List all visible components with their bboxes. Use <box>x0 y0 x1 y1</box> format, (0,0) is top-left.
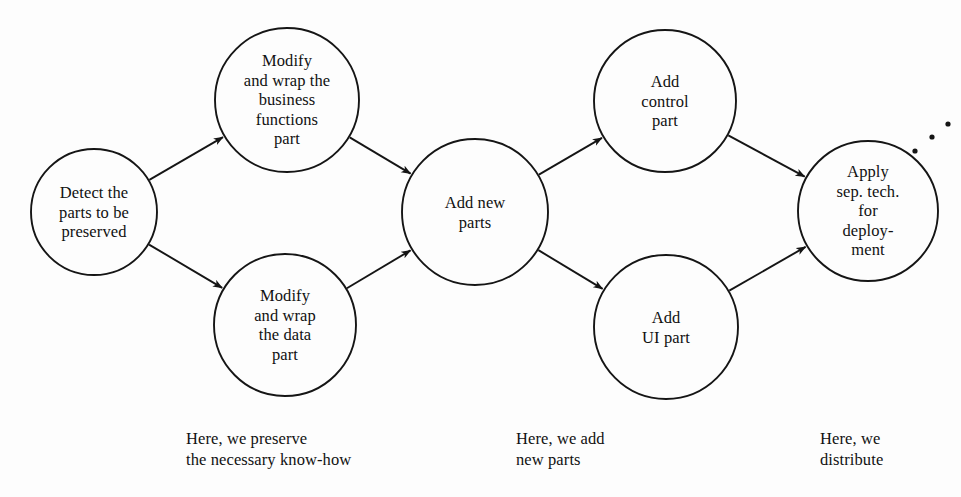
node-circle-modify-data[interactable] <box>214 254 356 396</box>
edge-add-ui-to-apply-sep <box>729 247 805 291</box>
edge-modify-bus-to-add-new <box>350 137 411 173</box>
continuation-ellipsis <box>912 121 950 153</box>
ellipsis-dot-1 <box>912 148 917 153</box>
nodes-layer <box>31 28 938 399</box>
edge-modify-data-to-add-new <box>347 250 411 288</box>
node-circle-detect[interactable] <box>31 149 157 275</box>
caption-preserve: Here, we preserve the necessary know-how <box>186 428 351 470</box>
node-circle-add-ui[interactable] <box>594 255 738 399</box>
flow-graphics <box>0 0 961 497</box>
edge-add-control-to-apply-sep <box>728 135 804 176</box>
node-circle-add-new[interactable] <box>402 139 548 285</box>
edge-add-new-to-add-control <box>539 138 602 175</box>
node-circle-add-control[interactable] <box>594 30 736 172</box>
edge-detect-to-modify-bus <box>149 137 223 180</box>
ellipsis-dot-3 <box>945 121 950 126</box>
caption-distribute: Here, we distribute <box>820 428 883 470</box>
node-circle-apply-sep[interactable] <box>798 141 938 281</box>
process-flow-diagram: Detect the parts to be preservedModify a… <box>0 0 961 497</box>
ellipsis-dot-2 <box>929 134 934 139</box>
caption-add: Here, we add new parts <box>516 428 605 470</box>
edge-add-new-to-add-ui <box>538 250 602 289</box>
node-circle-modify-bus[interactable] <box>215 28 359 172</box>
edge-detect-to-modify-data <box>149 245 222 288</box>
